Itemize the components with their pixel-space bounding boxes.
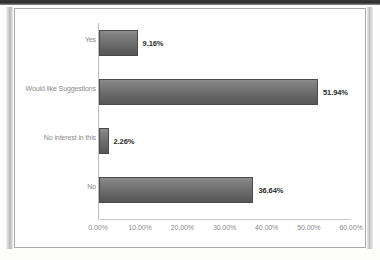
bar-row: 9.16% bbox=[99, 30, 352, 56]
xtick-label-0: 0.00% bbox=[88, 224, 107, 231]
chart-frame: Yes Would like Suggestions No interest i… bbox=[14, 8, 366, 248]
xtick-label-1: 10.00% bbox=[129, 224, 152, 231]
xtick-label-2: 20.00% bbox=[171, 224, 194, 231]
bar-value-label-3: 36.64% bbox=[258, 186, 283, 195]
bar-value-label-2: 2.26% bbox=[114, 137, 135, 146]
value-axis-line bbox=[98, 219, 351, 220]
xtick-label-6: 60.00% bbox=[339, 224, 362, 231]
scanned-page: Yes Would like Suggestions No interest i… bbox=[0, 0, 380, 260]
category-label-0: Yes bbox=[85, 36, 96, 43]
bar-1[interactable] bbox=[99, 79, 318, 105]
bar-row: 2.26% bbox=[99, 128, 352, 154]
xtick-label-5: 50.00% bbox=[297, 224, 320, 231]
bar-value-label-0: 9.16% bbox=[143, 39, 164, 48]
scan-edge-top bbox=[0, 0, 380, 5]
scan-edge-left bbox=[6, 7, 13, 249]
bar-row: 36.64% bbox=[99, 177, 352, 203]
bar-2[interactable] bbox=[99, 128, 109, 154]
plot-area: Yes Would like Suggestions No interest i… bbox=[15, 9, 367, 249]
category-label-1: Would like Suggestions bbox=[26, 85, 96, 92]
bar-row: 51.94% bbox=[99, 79, 352, 105]
bar-value-label-1: 51.94% bbox=[323, 88, 348, 97]
bar-0[interactable] bbox=[99, 30, 138, 56]
bar-3[interactable] bbox=[99, 177, 253, 203]
category-label-2: No interest in this bbox=[44, 134, 96, 141]
xtick-label-4: 40.00% bbox=[255, 224, 278, 231]
xtick-label-3: 30.00% bbox=[213, 224, 236, 231]
category-label-3: No bbox=[87, 183, 96, 190]
scan-edge-right bbox=[367, 7, 373, 249]
